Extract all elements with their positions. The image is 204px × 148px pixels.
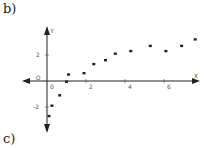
y-axis-up-arrow-icon <box>44 26 50 35</box>
data-point <box>180 45 183 47</box>
data-point <box>83 72 86 74</box>
data-point <box>129 50 132 52</box>
x-tick-label: 6 <box>167 83 171 90</box>
x-tick-label: 4 <box>128 83 132 90</box>
data-point <box>65 81 68 83</box>
origin-label: O <box>36 74 41 81</box>
data-point <box>194 38 197 40</box>
y-axis-down-arrow-icon <box>44 124 50 133</box>
scatter-plot: 02462-2YXO <box>0 0 204 148</box>
y-tick-label: -2 <box>33 103 39 110</box>
x-tick-label: 2 <box>89 83 93 90</box>
data-point <box>50 105 53 107</box>
y-axis-label: Y <box>49 27 54 34</box>
data-point <box>67 73 70 75</box>
x-axis-left-arrow-icon <box>22 78 30 84</box>
x-axis-label: X <box>194 72 198 79</box>
y-tick-label: 2 <box>36 51 40 58</box>
data-point <box>114 53 117 55</box>
data-point <box>164 50 167 52</box>
data-point <box>58 94 61 96</box>
data-point <box>48 115 51 117</box>
data-point <box>149 45 152 47</box>
x-tick-label: 0 <box>50 83 54 90</box>
data-point <box>92 63 95 65</box>
data-point <box>104 59 107 61</box>
